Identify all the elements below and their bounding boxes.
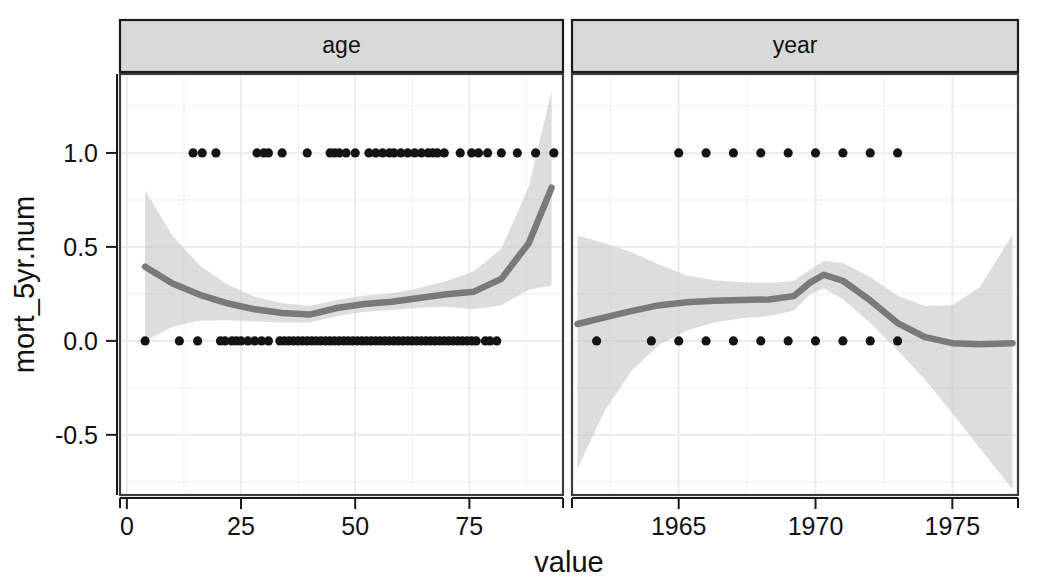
- x-tick-label: 1965: [651, 512, 707, 540]
- y-tick-label: -0.5: [55, 421, 98, 449]
- data-point: [811, 336, 820, 345]
- data-point: [472, 336, 481, 345]
- facet-chart-figure: age0255075year196519701975-0.50.00.51.0m…: [0, 0, 1044, 588]
- data-point: [893, 148, 902, 157]
- data-point: [756, 148, 765, 157]
- data-point: [838, 336, 847, 345]
- data-point: [497, 148, 506, 157]
- data-point: [303, 148, 312, 157]
- x-tick-label: 75: [455, 512, 483, 540]
- data-point: [198, 148, 207, 157]
- data-point: [351, 148, 360, 157]
- data-point: [674, 148, 683, 157]
- data-point: [729, 148, 738, 157]
- data-point: [701, 336, 710, 345]
- facet-strip-label-age: age: [322, 32, 360, 58]
- data-point: [474, 148, 483, 157]
- y-axis: -0.50.00.51.0: [55, 74, 117, 495]
- data-point: [341, 148, 350, 157]
- y-tick-label: 0.5: [63, 233, 98, 261]
- x-tick-label: 1970: [788, 512, 844, 540]
- data-point: [838, 148, 847, 157]
- data-point: [513, 148, 522, 157]
- y-axis-title: mort_5yr.num: [8, 196, 40, 373]
- data-point: [264, 148, 273, 157]
- x-tick-label: 0: [120, 512, 134, 540]
- y-tick-label: 1.0: [63, 139, 98, 167]
- data-point: [729, 336, 738, 345]
- data-point: [866, 336, 875, 345]
- data-point: [756, 336, 765, 345]
- data-point: [674, 336, 683, 345]
- data-point: [701, 148, 710, 157]
- data-point: [141, 336, 150, 345]
- facet-panel-year: year196519701975: [572, 20, 1018, 540]
- data-point: [264, 336, 273, 345]
- data-point: [211, 148, 220, 157]
- data-point: [188, 148, 197, 157]
- data-point: [784, 336, 793, 345]
- data-point: [811, 148, 820, 157]
- data-point: [483, 148, 492, 157]
- data-point: [866, 148, 875, 157]
- data-point: [175, 336, 184, 345]
- data-point: [531, 148, 540, 157]
- data-point: [893, 336, 902, 345]
- facet-panel-age: age0255075: [120, 20, 563, 540]
- data-point: [784, 148, 793, 157]
- x-axis-title: value: [534, 546, 603, 578]
- chart-canvas: age0255075year196519701975-0.50.00.51.0m…: [0, 0, 1044, 588]
- data-point: [278, 148, 287, 157]
- x-tick-label: 1975: [925, 512, 981, 540]
- data-point: [492, 336, 501, 345]
- data-point: [440, 148, 449, 157]
- data-point: [549, 148, 558, 157]
- x-tick-label: 50: [341, 512, 369, 540]
- x-tick-label: 25: [227, 512, 255, 540]
- facet-strip-label-year: year: [773, 32, 818, 58]
- y-tick-label: 0.0: [63, 327, 98, 355]
- data-point: [456, 148, 465, 157]
- data-point: [592, 336, 601, 345]
- data-point: [193, 336, 202, 345]
- data-point: [647, 336, 656, 345]
